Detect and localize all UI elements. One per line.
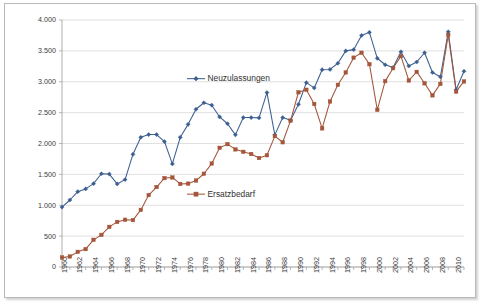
- data-point: [194, 179, 198, 183]
- data-point: [115, 220, 119, 224]
- data-point: [186, 182, 190, 186]
- data-point: [454, 90, 458, 94]
- series-lines-group: [62, 32, 464, 258]
- data-point: [100, 233, 104, 237]
- data-point: [296, 102, 300, 106]
- data-point: [202, 172, 206, 176]
- x-tick-label: 1980: [217, 257, 226, 273]
- x-tick-label: 2010: [454, 257, 463, 273]
- data-point: [249, 115, 253, 119]
- y-tick-label: 4.000: [38, 15, 56, 24]
- data-point: [375, 108, 379, 112]
- x-tick-label: 1992: [312, 257, 321, 273]
- legend-marker-2: [194, 192, 198, 196]
- data-point: [241, 150, 245, 154]
- data-point: [407, 64, 411, 68]
- data-point: [359, 33, 363, 37]
- data-point: [423, 81, 427, 85]
- y-axis-tick-labels: 05001.0001.5002.0002.5003.0003.5004.000: [38, 15, 56, 271]
- x-tick-label: 1962: [75, 257, 84, 273]
- data-point: [367, 30, 371, 34]
- y-tick-label: 1.500: [38, 170, 56, 179]
- data-point: [147, 193, 151, 197]
- data-point: [431, 94, 435, 98]
- y-tick-label: 500: [44, 232, 56, 241]
- data-point: [60, 256, 64, 260]
- data-point: [139, 208, 143, 212]
- x-tick-label: 1986: [264, 257, 273, 273]
- series-line-neuzulassungen: [62, 32, 464, 207]
- data-point: [210, 162, 214, 166]
- data-point: [218, 146, 222, 150]
- data-point: [446, 33, 450, 37]
- data-point: [76, 250, 80, 254]
- data-point: [352, 56, 356, 60]
- chart-plot-area: 05001.0001.5002.0002.5003.0003.5004.000 …: [0, 0, 483, 308]
- y-tick-label: 1.000: [38, 201, 56, 210]
- x-tick-label: 1996: [343, 257, 352, 273]
- data-point: [281, 115, 285, 119]
- data-point: [399, 50, 403, 54]
- data-point: [234, 148, 238, 152]
- data-point: [289, 119, 293, 123]
- data-point: [415, 70, 419, 74]
- x-tick-label: 2008: [438, 257, 447, 273]
- x-tick-label: 1994: [328, 257, 337, 273]
- x-tick-label: 1968: [123, 257, 132, 273]
- data-point: [84, 247, 88, 251]
- data-point: [407, 79, 411, 83]
- data-point: [368, 62, 372, 66]
- x-tick-label: 1998: [359, 257, 368, 273]
- series-markers-group: [60, 30, 466, 260]
- data-point: [92, 238, 96, 242]
- data-point: [107, 225, 111, 229]
- series-inline-legend: NeuzulassungenErsatzbedarf: [187, 73, 270, 198]
- data-point: [241, 115, 245, 119]
- legend-label-2: Ersatzbedarf: [208, 189, 256, 199]
- data-point: [328, 100, 332, 104]
- data-point: [399, 54, 403, 58]
- data-point: [462, 80, 466, 84]
- x-tick-label: 1990: [296, 257, 305, 273]
- x-tick-label: 1972: [154, 257, 163, 273]
- x-tick-label: 2002: [391, 257, 400, 273]
- y-tick-label: 2.500: [38, 108, 56, 117]
- data-point: [123, 218, 127, 222]
- y-tick-label: 2.000: [38, 139, 56, 148]
- x-tick-label: 1974: [170, 257, 179, 273]
- line-chart-svg: 05001.0001.5002.0002.5003.0003.5004.000 …: [0, 0, 483, 308]
- data-point: [257, 116, 261, 120]
- data-point: [320, 68, 324, 72]
- x-tick-label: 1988: [280, 257, 289, 273]
- chart-figure: 05001.0001.5002.0002.5003.0003.5004.000 …: [0, 0, 483, 308]
- data-point: [320, 127, 324, 131]
- data-point: [336, 83, 340, 87]
- data-point: [257, 156, 261, 160]
- x-tick-label: 1964: [91, 257, 100, 273]
- data-point: [281, 140, 285, 144]
- data-point: [139, 135, 143, 139]
- x-tick-label: 1976: [186, 257, 195, 273]
- data-point: [265, 90, 269, 94]
- x-tick-label: 1966: [107, 257, 116, 273]
- data-point: [68, 255, 72, 259]
- x-tick-label: 2006: [422, 257, 431, 273]
- data-point: [155, 185, 159, 189]
- data-point: [131, 152, 135, 156]
- data-point: [171, 176, 175, 180]
- data-point: [249, 152, 253, 156]
- x-tick-label: 2004: [406, 257, 415, 273]
- data-point: [131, 218, 135, 222]
- data-point: [265, 153, 269, 157]
- data-point: [163, 176, 167, 180]
- x-tick-label: 1978: [201, 257, 210, 273]
- data-point: [123, 178, 127, 182]
- data-point: [439, 82, 443, 86]
- data-point: [297, 90, 301, 94]
- data-point: [147, 132, 151, 136]
- y-tick-label: 3.500: [38, 46, 56, 55]
- data-point: [430, 70, 434, 74]
- data-point: [226, 142, 230, 146]
- data-point: [178, 182, 182, 186]
- data-point: [170, 162, 174, 166]
